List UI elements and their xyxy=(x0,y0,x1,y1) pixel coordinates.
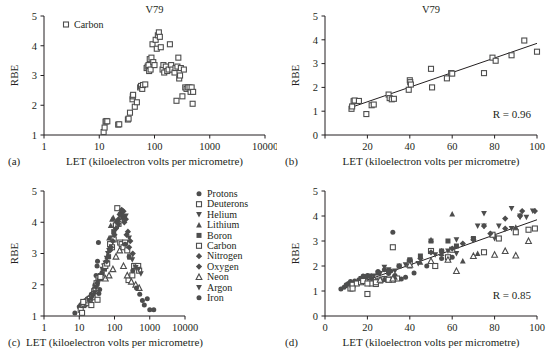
x-tick-label: 80 xyxy=(489,322,500,333)
x-axis-label: LET (kiloelectron volts per micrometre) xyxy=(66,155,243,168)
x-tick-label: 60 xyxy=(447,141,458,152)
legend-label: Lithium xyxy=(207,219,239,230)
x-tick-label: 80 xyxy=(489,141,500,152)
panel-letter: (c) xyxy=(8,336,21,349)
series-oxygen xyxy=(396,208,538,269)
x-tick-label: 1000 xyxy=(139,322,160,333)
x-tick-label: 20 xyxy=(362,322,373,333)
y-tick-label: 1 xyxy=(32,130,37,141)
y-tick-label: 3 xyxy=(313,58,318,69)
y-tick-label: 3 xyxy=(313,236,318,247)
x-tick-label: 1000 xyxy=(199,141,220,152)
x-tick-label: 0 xyxy=(322,322,327,333)
y-axis-label: RBE xyxy=(8,65,20,87)
x-tick-label: 1 xyxy=(41,322,46,333)
legend-label: Helium xyxy=(207,209,237,220)
legend-label: Argon xyxy=(207,282,232,293)
x-axis-label: LET (kiloelectron volts per micrometre) xyxy=(26,336,203,349)
y-tick-label: 1 xyxy=(313,106,318,117)
x-axis-label: LET (kiloelectron volts per micrometre) xyxy=(343,336,520,349)
y-axis-label: RBE xyxy=(289,65,301,87)
x-tick-label: 10000 xyxy=(252,141,277,152)
y-tick-label: 1 xyxy=(313,286,318,297)
legend-label: Carbon xyxy=(207,240,236,251)
y-tick-label: 1 xyxy=(32,311,37,322)
panel-letter: (b) xyxy=(285,155,298,168)
legend-label: Oxygen xyxy=(207,261,239,272)
y-axis-label: RBE xyxy=(289,243,301,265)
panel-d: 020406080100012345RBELET (kiloelectron v… xyxy=(277,181,553,362)
x-tick-label: 20 xyxy=(362,141,373,152)
y-tick-label: 5 xyxy=(313,11,318,22)
x-tick-label: 1 xyxy=(41,141,46,152)
series-carbon xyxy=(101,30,195,135)
legend-label: Deuterons xyxy=(207,198,248,209)
panel-b: 20406080100012345V79RBELET (kiloelectron… xyxy=(277,0,553,181)
y-tick-label: 2 xyxy=(313,261,318,272)
y-tick-label: 4 xyxy=(313,211,319,222)
x-tick-label: 100 xyxy=(147,141,163,152)
y-tick-label: 4 xyxy=(313,35,319,46)
legend-label: Iron xyxy=(207,292,224,303)
y-tick-label: 5 xyxy=(313,186,318,197)
correlation-label: R = 0.96 xyxy=(493,108,532,120)
panel-letter: (a) xyxy=(8,155,21,168)
panel-letter: (d) xyxy=(285,336,298,349)
figure-rbe-let-panels: 11010010001000012345V79RBELET (kiloelect… xyxy=(0,0,553,362)
legend: Carbon xyxy=(64,19,104,30)
x-tick-label: 10 xyxy=(94,141,105,152)
x-tick-label: 40 xyxy=(405,322,416,333)
plot-title: V79 xyxy=(145,4,163,15)
y-tick-label: 0 xyxy=(313,311,318,322)
correlation-label: R = 0.85 xyxy=(493,289,532,301)
legend-label: Neon xyxy=(207,271,229,282)
y-axis-label: RBE xyxy=(8,243,20,265)
x-tick-label: 100 xyxy=(529,322,545,333)
y-tick-label: 4 xyxy=(32,41,38,52)
y-tick-label: 0 xyxy=(313,130,318,141)
legend-label: Protons xyxy=(207,188,238,199)
legend-label: Carbon xyxy=(74,19,103,30)
y-tick-label: 5 xyxy=(32,186,37,197)
x-tick-label: 40 xyxy=(405,141,416,152)
x-tick-label: 10000 xyxy=(172,322,198,333)
panel-c: 11010010001000012345RBELET (kiloelectron… xyxy=(0,181,277,362)
y-tick-label: 3 xyxy=(32,248,37,259)
panel-a: 11010010001000012345V79RBELET (kiloelect… xyxy=(0,0,277,181)
x-tick-label: 100 xyxy=(107,322,123,333)
y-tick-label: 2 xyxy=(32,100,37,111)
legend: ProtonsDeuteronsHeliumLithiumBoronCarbon… xyxy=(196,188,248,303)
legend-label: Nitrogen xyxy=(207,250,243,261)
x-tick-label: 60 xyxy=(447,322,458,333)
y-tick-label: 3 xyxy=(32,70,37,81)
y-tick-label: 2 xyxy=(32,280,37,291)
series-boron xyxy=(359,236,476,281)
y-tick-label: 5 xyxy=(32,11,37,22)
x-tick-label: 100 xyxy=(529,141,545,152)
x-tick-label: 10 xyxy=(74,322,85,333)
x-axis-label: LET (kiloelectron volts per micrometre) xyxy=(343,155,520,168)
series-carbon xyxy=(349,38,540,117)
legend-label: Boron xyxy=(207,230,232,241)
plot-title: V79 xyxy=(422,4,440,15)
y-tick-label: 2 xyxy=(313,82,318,93)
y-tick-label: 4 xyxy=(32,217,38,228)
